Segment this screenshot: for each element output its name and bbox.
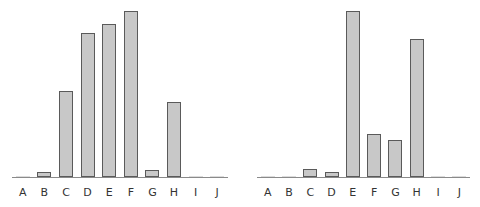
bar-h [167, 102, 181, 177]
bar-g [388, 140, 402, 177]
x-tick-label: F [364, 186, 384, 199]
bar-c [303, 169, 317, 177]
bar-f [124, 11, 138, 177]
x-tick-label: J [207, 186, 227, 199]
bar-h [410, 39, 424, 177]
x-tick-label: G [142, 186, 162, 199]
x-axis-line [257, 177, 470, 178]
bar-d [81, 33, 95, 177]
x-tick-label: B [34, 186, 54, 199]
x-tick-label: C [56, 186, 76, 199]
x-tick-label: A [258, 186, 278, 199]
plot-area [257, 0, 470, 177]
plot-area [12, 0, 228, 177]
x-tick-label: D [78, 186, 98, 199]
x-tick-label: A [13, 186, 33, 199]
bar-e [346, 11, 360, 177]
x-tick-label: I [186, 186, 206, 199]
x-tick-label: H [407, 186, 427, 199]
bar-g [145, 170, 159, 177]
x-tick-label: C [300, 186, 320, 199]
bar-f [367, 134, 381, 177]
bar-c [59, 91, 73, 177]
x-tick-label: J [449, 186, 469, 199]
x-tick-label: D [322, 186, 342, 199]
bar-e [102, 24, 116, 177]
right-bar-chart: ABCDEFGHIJ [257, 0, 470, 207]
x-tick-label: E [99, 186, 119, 199]
x-tick-label: E [343, 186, 363, 199]
x-tick-label: G [385, 186, 405, 199]
x-axis-line [12, 177, 228, 178]
x-tick-label: F [121, 186, 141, 199]
x-tick-label: H [164, 186, 184, 199]
x-tick-label: B [279, 186, 299, 199]
left-bar-chart: ABCDEFGHIJ [12, 0, 228, 207]
x-tick-label: I [428, 186, 448, 199]
